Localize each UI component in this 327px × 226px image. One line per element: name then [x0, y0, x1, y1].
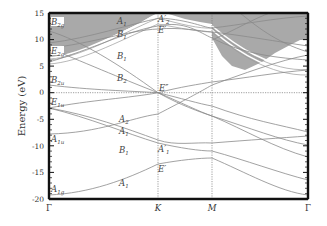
label-ep-k-top: E′: [157, 25, 166, 35]
ytick-minus15: -15: [32, 168, 44, 177]
label-a2-low: A2: [118, 114, 129, 125]
xtick-gamma-end: Γ: [305, 203, 311, 213]
y-major-ticks: [49, 40, 308, 173]
label-b1-mid: B1: [116, 51, 127, 62]
band-e1u-lower: [49, 108, 308, 180]
label-e1u: E1u: [50, 97, 65, 108]
label-a1-low: A1: [118, 126, 129, 137]
band-structure-chart: 15 10 5 0 -5 -10 -15 -20 Energy (eV) Γ K…: [0, 0, 327, 226]
label-b2u: B2u: [50, 75, 65, 86]
label-a1p-k: A′1: [157, 144, 170, 155]
label-b1-low: B1: [118, 145, 129, 156]
ytick-minus10: -10: [32, 142, 44, 151]
ytick-0: 0: [39, 88, 44, 97]
ytick-minus5: -5: [37, 115, 45, 124]
label-a1g: A1g: [50, 184, 65, 196]
label-b2-mid: B2: [116, 73, 127, 84]
label-ep-k-bottom: E′: [157, 164, 166, 174]
band-a1u: [49, 55, 308, 134]
band-e1u-upper: [49, 108, 308, 143]
ytick-5: 5: [39, 62, 44, 71]
label-a1-bottom: A1: [118, 178, 129, 189]
xtick-k: K: [154, 203, 162, 213]
y-tick-labels: 15 10 5 0 -5 -10 -15 -20: [32, 9, 44, 204]
ytick-minus20: -20: [32, 195, 44, 204]
xtick-m: M: [207, 203, 217, 213]
band-a1g: [49, 158, 308, 195]
ytick-10: 10: [34, 35, 44, 44]
label-a1u: A1u: [50, 134, 65, 145]
ytick-15: 15: [34, 9, 44, 18]
x-tick-labels: Γ K M Γ: [46, 203, 311, 213]
xtick-gamma-start: Γ: [46, 203, 52, 213]
y-axis-title: Energy (eV): [16, 76, 27, 137]
band-b2u-pi: [49, 85, 308, 132]
label-epp-k: E″: [158, 83, 169, 93]
